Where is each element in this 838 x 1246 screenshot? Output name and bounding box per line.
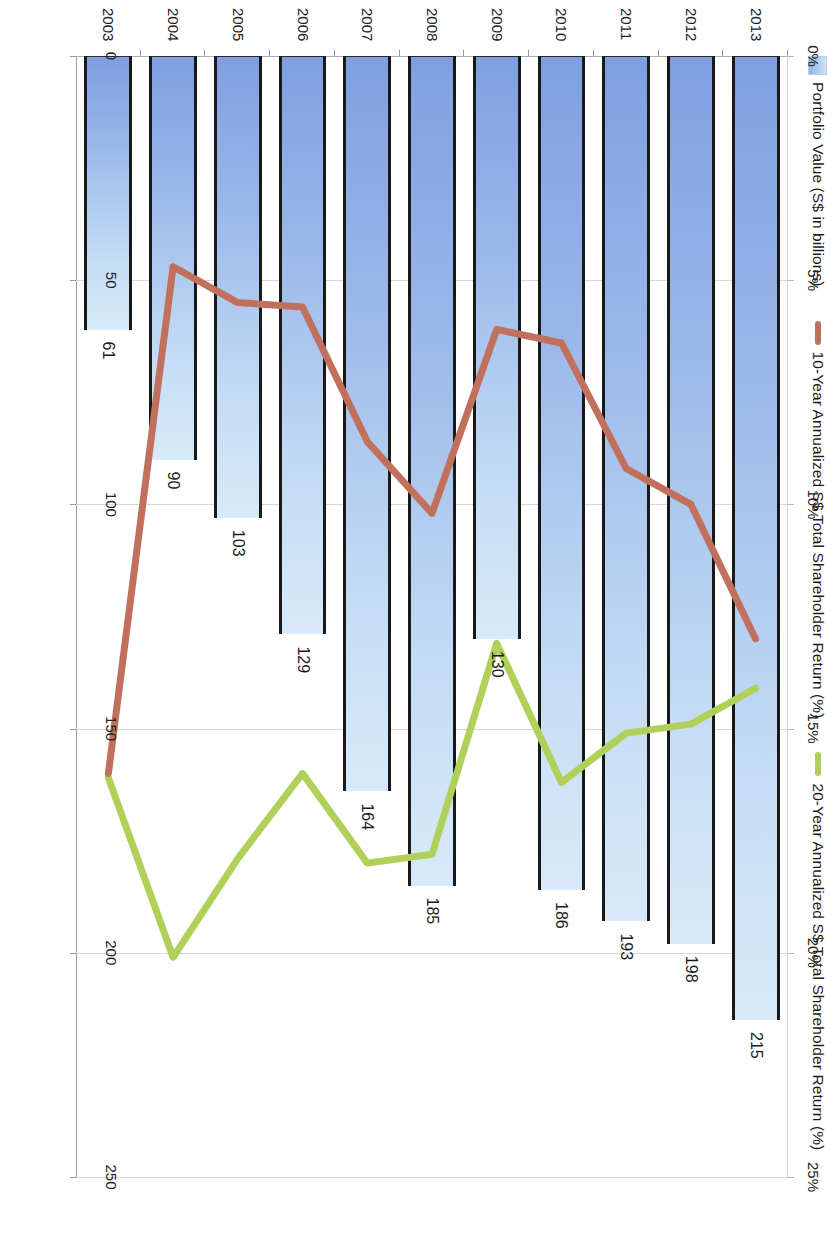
category-label-2007: 2007 [359, 8, 376, 41]
bar-label-2010: 186 [552, 902, 570, 929]
axis-tick [788, 1177, 794, 1178]
bar-label-2011: 193 [617, 933, 635, 960]
bar-label-2012: 198 [682, 956, 700, 983]
category-label-2010: 2010 [553, 8, 570, 41]
primary-axis-tick-label: 100 [103, 492, 120, 517]
secondary-axis-tick-label: 10% [805, 489, 822, 519]
category-label-2009: 2009 [488, 8, 505, 41]
legend-line-swatch-green-icon [815, 752, 821, 776]
axis-tick [788, 280, 794, 281]
scanned-page: Portfolio Value (S$ in billions) 10-Year… [0, 0, 838, 1246]
category-label-2003: 2003 [100, 8, 117, 41]
bar-label-2008: 185 [423, 898, 441, 925]
category-label-2005: 2005 [229, 8, 246, 41]
legend-label-tsr-10yr: 10-Year Annualized S$ Total Shareholder … [809, 352, 827, 719]
bar-label-2005: 103 [229, 530, 247, 557]
category-label-2004: 2004 [165, 8, 182, 41]
bar-label-2003: 61 [99, 342, 117, 360]
bar-label-2006: 129 [294, 646, 312, 673]
chart-figure: Portfolio Value (S$ in billions) 10-Year… [0, 0, 838, 1246]
category-label-2012: 2012 [682, 8, 699, 41]
primary-axis-tick-label: 0 [103, 52, 120, 60]
bar-label-2009: 130 [488, 651, 506, 678]
secondary-axis-tick-label: 15% [805, 714, 822, 744]
legend-line-swatch-red-icon [815, 321, 821, 345]
primary-axis-tick-label: 250 [103, 1164, 120, 1189]
category-label-2008: 2008 [424, 8, 441, 41]
secondary-axis-tick-label: 25% [805, 1162, 822, 1192]
primary-axis-tick-label: 200 [103, 940, 120, 965]
secondary-axis-tick-label: 0% [805, 45, 822, 67]
primary-axis-tick-label: 50 [103, 272, 120, 289]
bar-label-2004: 90 [164, 472, 182, 490]
line-tsr-10yr [108, 267, 755, 774]
category-label-2011: 2011 [618, 8, 635, 40]
axis-tick [788, 504, 794, 505]
axis-tick [788, 729, 794, 730]
gridline [76, 1177, 788, 1178]
bar-label-2013: 215 [747, 1032, 765, 1059]
axis-tick [788, 56, 794, 57]
secondary-axis-tick-label: 20% [805, 938, 822, 968]
axis-tick [70, 1177, 76, 1178]
category-label-2006: 2006 [294, 8, 311, 41]
axis-tick [788, 953, 794, 954]
legend-item-tsr-10yr[interactable]: 10-Year Annualized S$ Total Shareholder … [809, 321, 827, 719]
line-series [76, 56, 788, 1177]
chart-legend: Portfolio Value (S$ in billions) 10-Year… [798, 0, 838, 1246]
bar-label-2007: 164 [358, 803, 376, 830]
plot-area: 6190103129164185130186193198215 [76, 56, 788, 1177]
secondary-axis-tick-label: 5% [805, 269, 822, 291]
category-label-2013: 2013 [747, 8, 764, 41]
primary-axis-tick-label: 150 [103, 716, 120, 741]
legend-item-portfolio-value[interactable]: Portfolio Value (S$ in billions) [809, 56, 828, 287]
legend-label-portfolio-value: Portfolio Value (S$ in billions) [809, 82, 827, 287]
